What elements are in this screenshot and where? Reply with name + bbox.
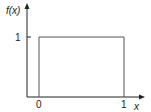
x-tick-label-1: 1 xyxy=(121,99,127,110)
x-axis-label: x xyxy=(133,101,140,112)
y-axis-arrow-icon xyxy=(25,3,30,9)
y-axis-label: f(x) xyxy=(6,5,20,16)
x-tick-label-0: 0 xyxy=(36,99,42,110)
y-tick-label: 1 xyxy=(15,32,21,43)
density-curve xyxy=(39,37,124,97)
uniform-density-chart: f(x) 1 0 1 x xyxy=(0,0,151,112)
x-axis-arrow-icon xyxy=(139,95,145,100)
